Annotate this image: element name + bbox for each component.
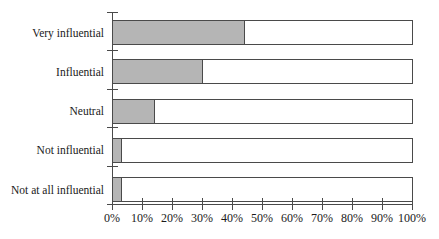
- y-axis-tick: [107, 12, 118, 13]
- y-axis-tick: [107, 166, 118, 167]
- bar-fill: [113, 178, 122, 201]
- x-axis-tick: [292, 198, 293, 210]
- x-axis-tick: [352, 198, 353, 210]
- x-axis-tick: [112, 198, 113, 210]
- y-axis-tick: [107, 50, 118, 51]
- y-axis-tick: [107, 127, 118, 128]
- y-axis-tick: [107, 89, 118, 90]
- bar-fill: [113, 100, 155, 123]
- category-label: Influential: [0, 65, 104, 79]
- category-label: Neutral: [0, 104, 104, 118]
- category-label: Very influential: [0, 26, 104, 40]
- y-axis-line: [112, 12, 113, 205]
- bar-track: [112, 20, 413, 45]
- bar-track: [112, 59, 413, 84]
- x-axis-tick: [262, 198, 263, 210]
- category-label: Not at all influential: [0, 183, 104, 197]
- bar-fill: [113, 139, 122, 162]
- bar-chart: Very influentialInfluentialNeutralNot in…: [0, 0, 439, 239]
- x-axis-tick: [172, 198, 173, 210]
- category-label: Not influential: [0, 143, 104, 157]
- bar-track: [112, 138, 413, 163]
- bar-fill: [113, 60, 203, 83]
- x-axis-tick-label: 100%: [390, 211, 434, 225]
- x-axis-tick: [322, 198, 323, 210]
- x-axis-tick: [232, 198, 233, 210]
- x-axis-tick: [412, 198, 413, 210]
- x-axis-tick: [202, 198, 203, 210]
- bar-track: [112, 99, 413, 124]
- bar-fill: [113, 21, 245, 44]
- x-axis-tick: [382, 198, 383, 210]
- x-axis-tick: [142, 198, 143, 210]
